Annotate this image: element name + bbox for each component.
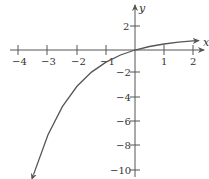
- y-tick-label: 2: [123, 21, 129, 32]
- x-tick-label: −2: [71, 56, 86, 67]
- y-tick-label: −4: [116, 92, 131, 103]
- y-tick-label: −10: [110, 165, 131, 176]
- y-tick-label: −2: [116, 67, 131, 78]
- y-tick-label: −6: [116, 116, 131, 127]
- x-tick-label: 2: [190, 56, 196, 67]
- y-axis-label: y: [138, 2, 146, 15]
- y-tick-labels: 2 −2 −4 −6 −8 −10: [110, 21, 131, 176]
- x-axis-label: x: [203, 36, 209, 49]
- chart: x y −4 −3 −2 −1 1 2 2 −2 −4 −6 −8 −10: [0, 0, 209, 179]
- y-tick-label: −8: [116, 140, 131, 151]
- x-tick-label: −3: [41, 56, 56, 67]
- x-tick-labels: −4 −3 −2 −1 1 2: [12, 56, 196, 67]
- function-curve: [34, 41, 199, 175]
- x-tick-label: −4: [12, 56, 27, 67]
- x-tick-label: 1: [161, 56, 167, 67]
